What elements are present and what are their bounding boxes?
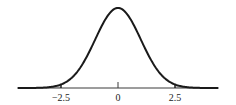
tick-label: 0 [116,92,121,103]
normal-distribution-chart: −2.502.5 [0,0,236,105]
tick-label: 2.5 [169,92,182,103]
bell-curve [18,8,219,88]
tick-markers [61,82,175,88]
tick-labels: −2.502.5 [52,92,181,103]
tick-label: −2.5 [52,92,70,103]
